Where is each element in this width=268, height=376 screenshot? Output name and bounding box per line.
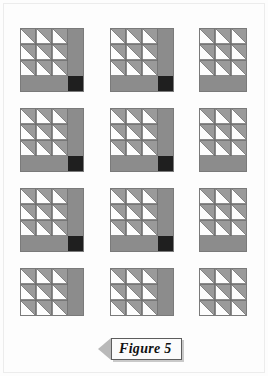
block-r4c2-diagram: [110, 268, 174, 316]
left-arrow-icon: [98, 338, 111, 360]
document-page: Figure 5: [0, 0, 268, 376]
block-r3c2-diagram: [110, 188, 174, 252]
block-r1c2: [110, 28, 174, 92]
block-r1c3: [199, 28, 247, 92]
figure-grid: [0, 24, 268, 334]
block-r4c1: [20, 268, 84, 316]
figure-caption: Figure 5: [0, 336, 268, 370]
block-r2c3: [199, 108, 247, 172]
block-r2c3-diagram: [199, 108, 247, 172]
block-r4c3-diagram: [199, 268, 247, 316]
block-r1c2-diagram: [110, 28, 174, 92]
block-r2c2: [110, 108, 174, 172]
block-r4c2: [110, 268, 174, 316]
block-r3c1: [20, 188, 84, 252]
block-r2c2-diagram: [110, 108, 174, 172]
block-r3c1-diagram: [20, 188, 84, 252]
block-r1c3-diagram: [199, 28, 247, 92]
block-r3c3-diagram: [199, 188, 247, 252]
block-r2c1: [20, 108, 84, 172]
caption-banner: Figure 5: [98, 338, 182, 360]
block-r4c1-diagram: [20, 268, 84, 316]
block-r1c1-diagram: [20, 28, 84, 92]
block-r3c2: [110, 188, 174, 252]
caption-label: Figure 5: [119, 342, 172, 356]
caption-box: Figure 5: [111, 338, 182, 360]
block-r3c3: [199, 188, 247, 252]
block-r4c3: [199, 268, 247, 316]
block-r1c1: [20, 28, 84, 92]
block-r2c1-diagram: [20, 108, 84, 172]
